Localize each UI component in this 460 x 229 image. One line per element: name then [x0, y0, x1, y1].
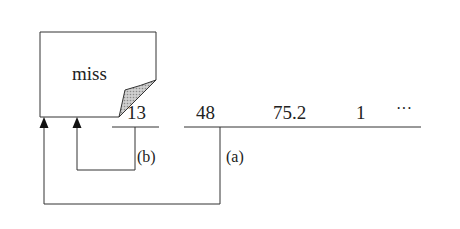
ref-label-a: (a)	[226, 149, 244, 165]
value-13: 13	[127, 103, 146, 122]
ellipsis: ···	[396, 101, 412, 117]
value-48: 48	[196, 103, 215, 122]
connector-b	[77, 127, 135, 170]
connector-a	[44, 127, 220, 204]
ref-label-b: (b)	[137, 149, 156, 165]
value-75-2: 75.2	[273, 103, 306, 122]
note-label: miss	[72, 64, 107, 83]
value-1: 1	[356, 103, 366, 122]
arrow-b-icon	[73, 117, 82, 128]
diagram-canvas	[0, 0, 460, 229]
arrow-a-icon	[40, 117, 49, 128]
